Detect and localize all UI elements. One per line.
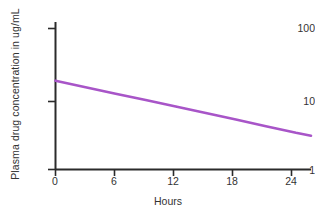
plot-canvas [0,0,315,216]
cropped-caption [0,212,315,216]
concentration-line [56,81,312,136]
semilog-plot: Plasma drug concentration in ug/mL Hours… [0,0,315,216]
